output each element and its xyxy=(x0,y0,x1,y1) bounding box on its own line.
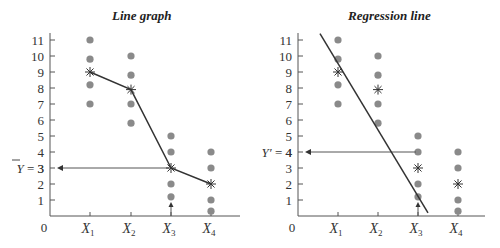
data-point xyxy=(207,164,214,171)
mean-line xyxy=(90,72,211,184)
line-graph-chart: Line graph 12345678910110X1X2X3X4Y = 3 xyxy=(0,0,250,248)
y-tick-label: 2 xyxy=(286,177,293,192)
y-tick-label: 7 xyxy=(286,97,293,112)
annotation-symbol: Y xyxy=(16,161,26,176)
data-point xyxy=(167,148,174,155)
x-tick-label: X2 xyxy=(368,221,382,238)
asterisk-mean-marker xyxy=(206,179,216,189)
y-tick-label: 6 xyxy=(38,113,45,128)
annotation-symbol: Y′ xyxy=(262,145,275,160)
data-point xyxy=(207,148,214,155)
annotation-value: = 4 xyxy=(275,145,293,160)
origin-label: 0 xyxy=(289,220,296,235)
line-graph-plot: 12345678910110X1X2X3X4Y = 3 xyxy=(0,0,250,248)
data-point xyxy=(374,100,381,107)
data-point xyxy=(414,180,421,187)
y-tick-label: 10 xyxy=(31,49,44,64)
x-tick-label: X4 xyxy=(201,221,216,238)
arrow-up-icon xyxy=(169,202,174,207)
asterisk-mean-marker xyxy=(85,67,95,77)
data-point xyxy=(167,180,174,187)
x-tick-label: X2 xyxy=(121,221,135,238)
arrow-left-icon xyxy=(57,165,63,171)
y-tick-label: 7 xyxy=(38,97,45,112)
x-tick-subscript: 2 xyxy=(131,228,136,238)
data-point xyxy=(334,100,341,107)
data-point xyxy=(334,81,341,88)
x-tick-label: X1 xyxy=(328,221,342,238)
data-point xyxy=(86,81,93,88)
origin-label: 0 xyxy=(41,220,48,235)
data-point xyxy=(167,132,174,139)
y-tick-label: 3 xyxy=(286,161,293,176)
asterisk-mean-marker xyxy=(166,163,176,173)
x-tick-subscript: 1 xyxy=(90,228,95,238)
data-point xyxy=(334,36,341,43)
regression-line-chart: Regression line 12345678910110X1X2X3X4Y′… xyxy=(250,0,500,248)
data-point xyxy=(454,164,461,171)
asterisk-mean-marker xyxy=(333,67,343,77)
y-tick-label: 1 xyxy=(286,193,293,208)
x-tick-subscript: 1 xyxy=(338,228,343,238)
data-point xyxy=(167,193,174,200)
data-point xyxy=(414,132,421,139)
y-tick-label: 10 xyxy=(279,49,292,64)
x-tick-subscript: 3 xyxy=(171,228,176,238)
x-tick-label: X3 xyxy=(161,221,176,238)
regression-line-plot: 12345678910110X1X2X3X4Y′ = 4 xyxy=(250,0,500,248)
data-point xyxy=(127,120,134,127)
y-tick-label: 11 xyxy=(31,33,44,48)
x-tick-subscript: 2 xyxy=(378,228,383,238)
data-point xyxy=(454,208,461,215)
data-point xyxy=(86,100,93,107)
data-point xyxy=(454,148,461,155)
data-point xyxy=(374,72,381,79)
y-tick-label: 9 xyxy=(286,65,293,80)
arrow-up-icon xyxy=(416,202,421,207)
data-point xyxy=(127,72,134,79)
data-point xyxy=(86,36,93,43)
annotation-label: Y = 3 xyxy=(16,161,44,176)
x-tick-label: X1 xyxy=(80,221,94,238)
x-tick-label: X4 xyxy=(448,221,463,238)
y-tick-label: 6 xyxy=(286,113,293,128)
y-tick-label: 8 xyxy=(38,81,45,96)
x-tick-subscript: 4 xyxy=(458,228,463,238)
y-tick-label: 1 xyxy=(38,193,45,208)
y-tick-label: 4 xyxy=(38,145,45,160)
y-tick-label: 5 xyxy=(38,129,45,144)
x-tick-subscript: 4 xyxy=(211,228,216,238)
arrow-left-icon xyxy=(305,149,311,155)
annotation-value: = 3 xyxy=(27,161,44,176)
annotation-label: Y′ = 4 xyxy=(262,145,293,160)
x-tick-subscript: 3 xyxy=(418,228,423,238)
asterisk-mean-marker xyxy=(373,85,383,95)
asterisk-mean-marker xyxy=(413,163,423,173)
data-point xyxy=(207,196,214,203)
asterisk-mean-marker xyxy=(126,85,136,95)
y-tick-label: 2 xyxy=(38,177,45,192)
data-point xyxy=(207,208,214,215)
y-tick-label: 8 xyxy=(286,81,293,96)
y-tick-label: 11 xyxy=(279,33,292,48)
data-point xyxy=(374,52,381,59)
asterisk-mean-marker xyxy=(453,179,463,189)
x-tick-label: X3 xyxy=(408,221,423,238)
data-point xyxy=(127,100,134,107)
data-point xyxy=(127,52,134,59)
data-point xyxy=(454,196,461,203)
data-point xyxy=(86,56,93,63)
y-tick-label: 9 xyxy=(38,65,45,80)
regression-line xyxy=(320,34,428,213)
y-tick-label: 5 xyxy=(286,129,293,144)
